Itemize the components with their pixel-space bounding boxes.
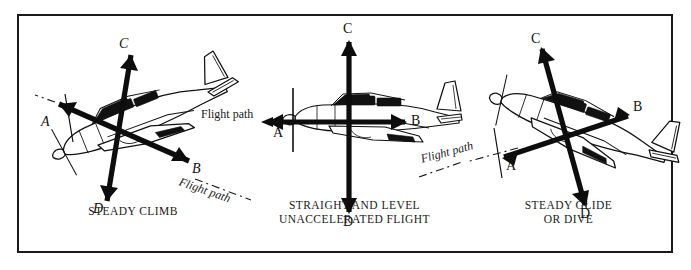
steady-climb-artwork (19, 16, 247, 255)
panel-straight-and-level: C A B D Flight path STRAIGHT AND LEVEL U… (247, 16, 462, 255)
vector-label-c: C (119, 37, 128, 51)
vector-label-a: A (506, 159, 516, 173)
flight-path-upper-dash (35, 95, 55, 102)
forces-in-flight-figure: C A B D Flight path STEADY CLIMB (0, 0, 691, 270)
caption-line: STEADY GLIDE (462, 199, 675, 213)
vector-label-c: C (531, 32, 540, 46)
panel-steady-climb: C A B D Flight path STEADY CLIMB (19, 16, 247, 255)
vector-label-a: A (273, 126, 283, 140)
airplane-silhouette (283, 81, 462, 152)
flight-path-label-level: Flight path (201, 108, 253, 120)
vector-label-b: B (192, 162, 201, 176)
caption-straight-and-level: STRAIGHT AND LEVEL UNACCELERATED FLIGHT (247, 199, 462, 226)
vector-label-b: B (411, 114, 420, 128)
caption-steady-glide-or-dive: STEADY GLIDE OR DIVE (462, 199, 675, 226)
vector-label-b: B (633, 100, 642, 114)
figure-border: C A B D Flight path STEADY CLIMB (17, 14, 673, 253)
panel-steady-glide-or-dive: C A B D Flight path STEADY GLIDE OR DIVE (462, 16, 675, 255)
caption-line: STEADY CLIMB (19, 205, 247, 219)
vector-label-a: A (41, 115, 50, 129)
vector-label-c: C (343, 22, 352, 36)
caption-line: OR DIVE (462, 213, 675, 227)
caption-line: UNACCELERATED FLIGHT (247, 213, 462, 227)
caption-steady-climb: STEADY CLIMB (19, 205, 247, 219)
caption-line: STRAIGHT AND LEVEL (247, 199, 462, 213)
